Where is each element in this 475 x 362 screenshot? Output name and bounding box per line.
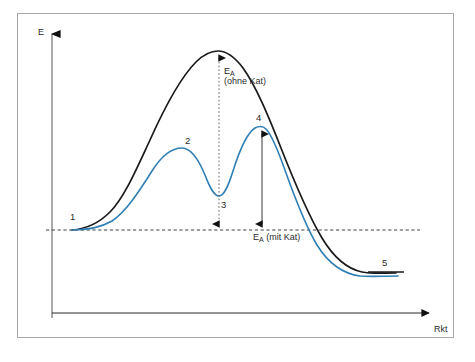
point-label-1: 1 bbox=[70, 212, 75, 223]
point-label-5: 5 bbox=[382, 258, 387, 269]
ea-catalyzed-subscript: A bbox=[259, 236, 264, 243]
ea-uncatalyzed-label: EA (ohne Kat) bbox=[224, 66, 266, 87]
ea-catalyzed-qualifier: (mit Kat) bbox=[264, 232, 301, 242]
energy-diagram: E Rkt 1 2 3 4 5 EA (ohne Kat) EA (mit Ka… bbox=[0, 0, 475, 362]
point-label-3: 3 bbox=[221, 200, 226, 211]
ea-catalyzed-label: EA (mit Kat) bbox=[253, 232, 300, 242]
point-label-2: 2 bbox=[185, 136, 190, 147]
ea-uncatalyzed-qualifier: (ohne Kat) bbox=[224, 76, 266, 86]
point-label-4: 4 bbox=[256, 113, 261, 124]
plot-canvas bbox=[0, 0, 475, 362]
y-axis-label: E bbox=[38, 27, 44, 37]
curve-catalyzed bbox=[72, 127, 398, 277]
x-axis-label: Rkt bbox=[434, 324, 448, 334]
ea-uncatalyzed-subscript: A bbox=[230, 70, 235, 77]
